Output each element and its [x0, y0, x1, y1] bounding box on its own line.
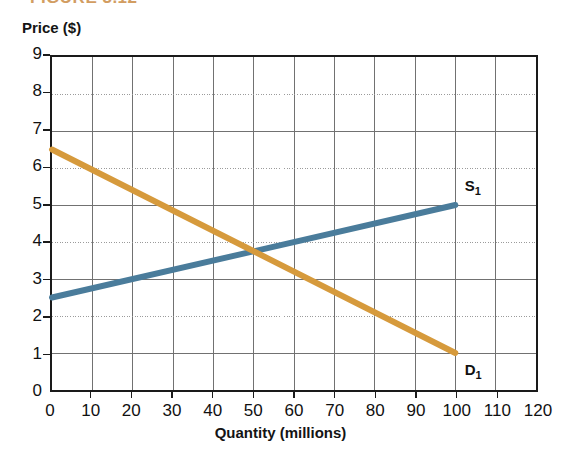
x-tick-label: 80 [355, 401, 395, 421]
y-axis-ticks [43, 55, 51, 392]
y-axis-title: Price ($) [22, 19, 81, 36]
x-tick-label: 100 [437, 401, 477, 421]
series-label-demand: D1 [465, 361, 482, 381]
x-tick-label: 70 [315, 401, 355, 421]
y-tick-label: 0 [22, 381, 42, 401]
y-tick-label: 2 [22, 306, 42, 326]
x-tick-label: 60 [274, 401, 314, 421]
y-tick-label: 5 [22, 194, 42, 214]
figure-caption: FIGURE 3.12 [30, 0, 138, 8]
x-tick-label: 30 [152, 401, 192, 421]
series-lines [52, 57, 536, 390]
series-label-supply: S1 [465, 177, 481, 197]
x-tick-label: 20 [111, 401, 151, 421]
y-tick-label: 8 [22, 81, 42, 101]
x-tick-label: 90 [396, 401, 436, 421]
plot-area [50, 55, 538, 392]
x-tick-label: 40 [193, 401, 233, 421]
y-tick-label: 9 [22, 44, 42, 64]
x-axis-ticks [50, 392, 538, 400]
x-tick-label: 0 [30, 401, 70, 421]
y-tick-label: 3 [22, 269, 42, 289]
y-tick-label: 7 [22, 119, 42, 139]
x-tick-label: 110 [477, 401, 517, 421]
x-tick-label: 120 [518, 401, 558, 421]
y-tick-label: 4 [22, 231, 42, 251]
x-tick-label: 50 [233, 401, 273, 421]
y-tick-label: 1 [22, 344, 42, 364]
y-tick-label: 6 [22, 156, 42, 176]
x-axis-title: Quantity (millions) [0, 424, 561, 441]
x-tick-label: 10 [71, 401, 111, 421]
